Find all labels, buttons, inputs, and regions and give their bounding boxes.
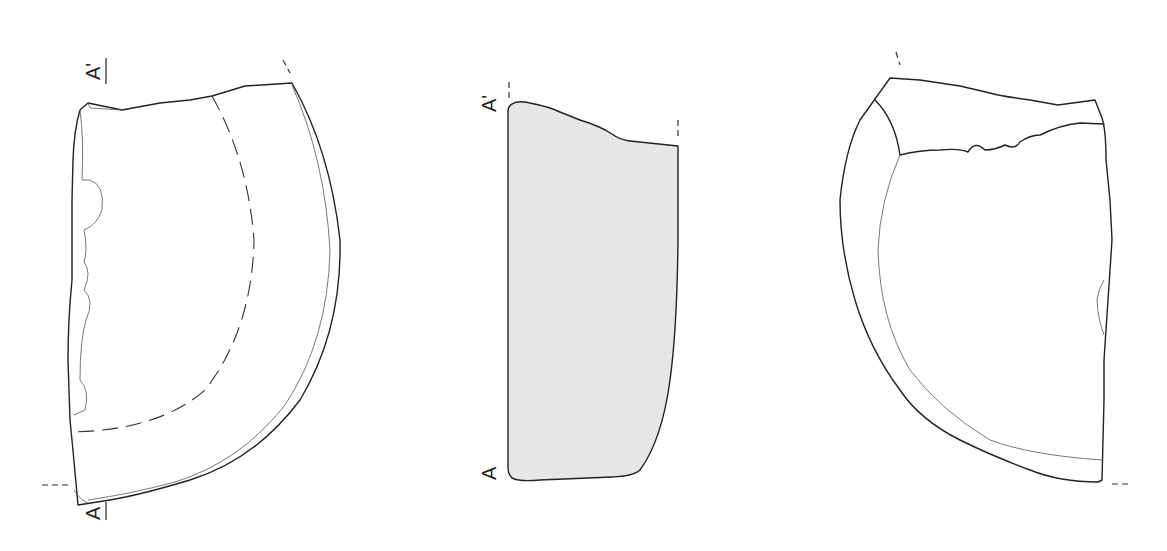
exterior-view: A' A <box>42 58 340 520</box>
label-a-prime-center: A' <box>478 95 500 112</box>
section-profile: A' A <box>478 82 678 481</box>
section-marker-top <box>283 60 290 73</box>
label-a-center: A <box>478 466 500 480</box>
section-marker-top-right <box>896 52 900 65</box>
label-a-left: A <box>82 506 104 520</box>
interior-view <box>840 52 1132 484</box>
drawing-canvas: A' A A' A <box>0 0 1167 551</box>
label-a-prime-left: A' <box>82 63 104 80</box>
